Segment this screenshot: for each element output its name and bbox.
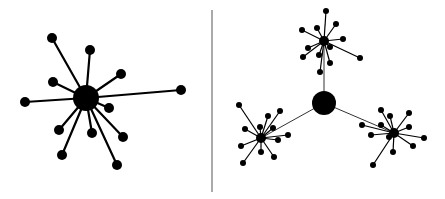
leaf-node: [406, 110, 412, 116]
sub-star-cluster: [299, 8, 363, 75]
leaf-node: [54, 125, 64, 135]
leaf-node: [20, 97, 30, 107]
leaf-node: [327, 60, 333, 66]
leaf-node: [258, 149, 264, 155]
leaf-node: [48, 77, 58, 87]
link-edge: [86, 90, 181, 98]
leaf-node: [410, 143, 416, 149]
leaf-node: [378, 107, 384, 113]
link-edge: [239, 105, 261, 138]
leaf-node: [327, 44, 333, 50]
sub-hub-node: [319, 36, 329, 46]
leaf-node: [271, 154, 277, 160]
leaf-node: [112, 160, 122, 170]
leaf-node: [421, 135, 427, 141]
sub-hub-node: [256, 133, 266, 143]
hub-node: [73, 85, 99, 111]
leaf-node: [340, 36, 346, 42]
leaf-node: [277, 108, 283, 114]
central-hub-node: [312, 91, 336, 115]
leaf-node: [317, 69, 323, 75]
leaf-node: [406, 124, 412, 130]
star-topology-panel: [20, 33, 186, 170]
leaf-node: [57, 150, 67, 160]
leaf-node: [323, 8, 329, 14]
leaf-node: [236, 102, 242, 108]
leaf-node: [85, 45, 95, 55]
leaf-node: [265, 113, 271, 119]
leaf-node: [314, 25, 320, 31]
leaf-node: [270, 125, 276, 131]
leaf-node: [370, 162, 376, 168]
leaf-node: [305, 45, 311, 51]
leaf-node: [316, 52, 322, 58]
leaf-node: [378, 122, 384, 128]
leaf-node: [300, 54, 306, 60]
leaf-node: [333, 21, 339, 27]
sub-hub-node: [389, 128, 399, 138]
leaf-node: [299, 27, 305, 33]
leaf-node: [357, 55, 363, 61]
leaf-node: [240, 160, 246, 166]
sub-star-cluster: [359, 107, 427, 168]
leaf-node: [118, 132, 128, 142]
leaf-node: [104, 103, 114, 113]
leaf-node: [47, 33, 57, 43]
topology-diagram: [0, 0, 445, 199]
leaf-node: [87, 128, 97, 138]
leaf-node: [238, 143, 244, 149]
leaf-node: [257, 124, 263, 130]
leaf-node: [242, 126, 248, 132]
leaf-node: [387, 113, 393, 119]
leaf-node: [285, 132, 291, 138]
leaf-node: [368, 132, 374, 138]
sub-star-cluster: [236, 102, 291, 166]
leaf-node: [359, 122, 365, 128]
leaf-node: [176, 85, 186, 95]
leaf-node: [275, 137, 281, 143]
leaf-node: [390, 149, 396, 155]
hierarchical-star-panel: [236, 8, 427, 168]
leaf-node: [116, 69, 126, 79]
